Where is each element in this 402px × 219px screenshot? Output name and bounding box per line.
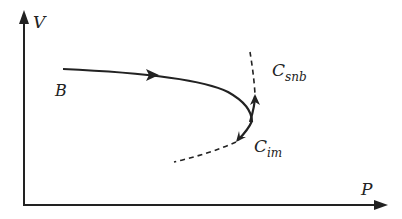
x-axis-arrow-icon (374, 200, 388, 210)
c-im-label: Cim (254, 136, 282, 160)
trajectory-curve (63, 69, 252, 122)
y-axis (19, 10, 29, 206)
point-b-label: B (54, 81, 67, 100)
x-axis (23, 200, 388, 210)
y-axis-arrow-icon (19, 10, 29, 24)
c-snb-label: Csnb (272, 60, 307, 84)
c-im-dashed-curve (174, 142, 236, 162)
c-snb-dashed-curve (250, 52, 255, 94)
pv-diagram: V P B Csnb Cim (0, 0, 402, 219)
y-axis-label: V (33, 12, 47, 32)
x-axis-label: P (360, 179, 373, 199)
